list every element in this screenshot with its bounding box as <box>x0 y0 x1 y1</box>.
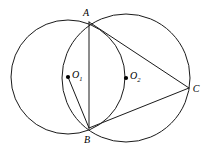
geometry-canvas: A B C O1 O2 <box>0 0 213 151</box>
point-label-o1-base: O <box>72 69 79 80</box>
point-label-o1: O1 <box>72 69 82 82</box>
point-label-o2: O2 <box>130 70 141 83</box>
point-label-c: C <box>193 83 200 94</box>
point-label-a: A <box>82 7 90 18</box>
point-label-o2-base: O <box>130 70 137 81</box>
point-label-o2-subscript: 2 <box>137 76 141 83</box>
point-label-b: B <box>84 134 90 145</box>
center-dot-o1 <box>66 75 70 79</box>
segment-bc <box>89 88 189 128</box>
center-dot-o2 <box>124 76 128 80</box>
geometry-figure: A B C O1 O2 <box>0 0 213 151</box>
point-label-o1-subscript: 1 <box>79 75 82 82</box>
